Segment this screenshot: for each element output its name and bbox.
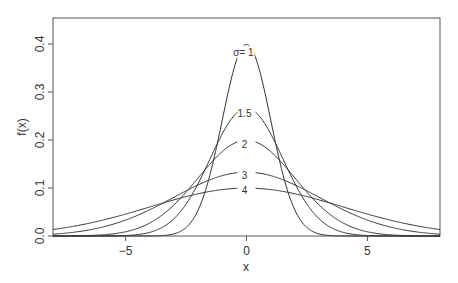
y-tick-label: 0.4 [33,35,47,52]
x-tick-label: 5 [364,244,371,258]
y-tick-label: 0.2 [33,131,47,148]
y-axis: 0.00.10.20.30.4 [33,35,53,244]
curve-label: 3 [242,170,248,181]
y-tick-label: 0.0 [33,227,47,244]
curve-label: 1.5 [238,108,252,119]
curve-label: 4 [242,185,248,196]
curve-sigma-3 [53,172,440,234]
x-axis: −505 [119,236,371,258]
normal-density-chart: σ= 11.5234 −505 0.00.10.20.30.4 x f(x) [0,0,458,283]
y-tick-label: 0.1 [33,179,47,196]
curve-label: σ= 1 [233,47,254,58]
x-tick-label: 0 [243,244,250,258]
curve-labels: σ= 11.5234 [233,46,256,196]
x-axis-label: x [243,260,249,274]
y-axis-label: f(x) [15,118,29,135]
curve-label: 2 [242,139,248,150]
x-tick-label: −5 [119,244,133,258]
y-tick-label: 0.3 [33,83,47,100]
